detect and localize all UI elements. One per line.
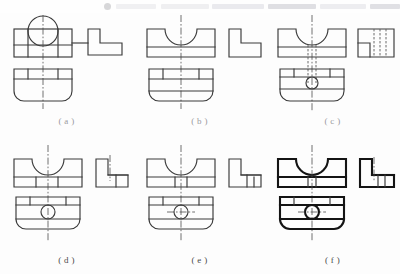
browser-toolbar-strip[interactable] [0, 0, 400, 13]
side-view-dividers-f [378, 175, 385, 187]
toolbar-segment-2[interactable] [161, 4, 209, 9]
side-view-hidden-c [374, 29, 386, 57]
figure-label-e: ( e ) [133, 255, 266, 265]
drawing-sheet: ( a ) ( b ) [0, 13, 400, 274]
figure-d: ( d ) [0, 141, 133, 271]
side-view-outline-b [229, 29, 261, 57]
side-view-outline-a [88, 29, 122, 55]
side-view-dividers-e [247, 175, 254, 187]
figure-b: ( b ) [133, 13, 266, 143]
figure-a: ( a ) [0, 13, 133, 143]
circle-icon[interactable] [104, 3, 111, 10]
side-view-outline-f [360, 159, 394, 187]
toolbar-segment-1[interactable] [116, 4, 156, 9]
figure-label-a: ( a ) [0, 116, 133, 126]
figure-label-d: ( d ) [0, 255, 133, 265]
side-view-outline-e [229, 159, 261, 187]
figure-label-f: ( f ) [266, 255, 399, 265]
figure-f: ( f ) [266, 141, 399, 271]
figure-label-c: ( c ) [266, 116, 399, 126]
toolbar-segment-6[interactable] [370, 4, 400, 9]
front-view-verticals-d [36, 177, 58, 187]
figure-e: ( e ) [133, 141, 266, 271]
toolbar-segment-4[interactable] [268, 4, 316, 9]
figure-c: ( c ) [266, 13, 399, 143]
figure-label-b: ( b ) [133, 116, 266, 126]
side-view-outline-d [96, 159, 128, 187]
toolbar-segment-3[interactable] [212, 4, 264, 9]
side-view-step-c [358, 43, 370, 57]
toolbar-segment-5[interactable] [320, 4, 366, 9]
